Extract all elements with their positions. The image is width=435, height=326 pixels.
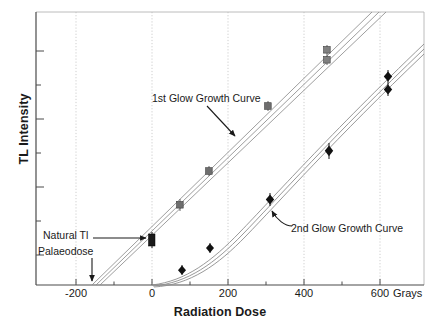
datapoint-second-glow-600b [384,83,392,96]
x-axis-label: Radiation Dose [120,305,320,319]
chart-figure: TL Intensity Radiation Dose -200 0 200 4… [0,0,435,326]
datapoint-first-glow-75 [177,199,184,211]
annotation-palaeodose: Palaeodose [38,245,93,257]
second-glow-fit-center [153,49,424,286]
series-first-glow-fit-band [92,12,386,285]
series-second-glow-fit-band [152,44,424,287]
datapoint-first-glow-300 [265,101,272,111]
x-axis-ticks [76,279,380,285]
datapoint-first-glow-150 [206,166,213,176]
chart-plot-area [0,0,435,326]
arrow-second-glow [272,211,292,226]
y-axis-label: TL Intensity [17,59,31,199]
annotation-first-glow: 1st Glow Growth Curve [152,92,261,104]
datapoint-first-glow-450b [324,55,331,65]
y-axis-ticks [36,51,44,255]
annotation-natural-tl: Natural Tl [43,229,88,241]
x-tick-label-neg200: -200 [46,287,106,299]
second-glow-fit-upper [152,44,424,285]
annotation-second-glow: 2nd Glow Growth Curve [291,222,403,234]
datapoint-natural-tl [149,232,156,248]
datapoint-second-glow-80 [178,265,186,275]
x-tick-label-200: 200 [198,287,258,299]
x-axis-units-label: Grays [393,287,435,299]
datapoint-second-glow-150 [206,243,214,253]
x-tick-label-400: 400 [274,287,334,299]
arrow-first-glow [207,106,235,136]
first-glow-fit-lower [100,12,386,285]
x-tick-label-0: 0 [122,287,182,299]
plot-frame [36,12,424,285]
axis-lines [36,12,424,285]
